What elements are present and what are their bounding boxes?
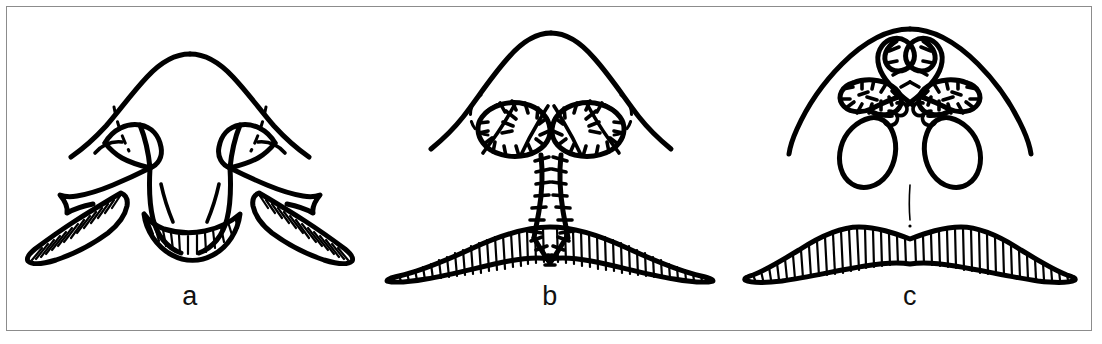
panel-a-illustration: [9, 7, 371, 285]
right-nostril-suture-loop: [552, 101, 624, 156]
panel-c-illustration: [729, 7, 1091, 285]
philtral-dot: [908, 224, 911, 227]
panel-label-b: b: [369, 279, 731, 313]
lip-body-hatched: [745, 227, 1075, 282]
panel-b: b: [369, 7, 731, 332]
left-nostril-suture-loop: [478, 101, 550, 156]
right-nostril-sill-flap: [219, 125, 285, 168]
panel-b-illustration: [369, 7, 731, 285]
crossed-columellar-sutures: [878, 38, 942, 105]
hatch-lip-body: [753, 228, 1068, 280]
suture-stitches-right-philtrum: [552, 157, 574, 233]
right-lateral-lip-flap-hatched: [230, 168, 353, 264]
left-nostril-sill-flap: [95, 125, 161, 168]
dashed-alar-base-lines: [114, 107, 266, 151]
central-prolabium: [144, 168, 240, 260]
panel-a: a: [9, 7, 371, 332]
suture-stitches-left-philtrum: [528, 157, 550, 233]
philtral-midline: [908, 185, 911, 228]
panel-c: c: [729, 7, 1091, 332]
figure-frame: a: [6, 6, 1092, 331]
figure-root: a: [0, 0, 1102, 344]
panel-label-a: a: [9, 279, 371, 313]
panel-label-c: c: [729, 279, 1091, 313]
left-lateral-lip-flap-hatched: [27, 168, 150, 264]
right-nostril-opening: [924, 118, 980, 188]
left-nostril-opening: [839, 118, 895, 188]
nostril-openings: [839, 118, 980, 188]
